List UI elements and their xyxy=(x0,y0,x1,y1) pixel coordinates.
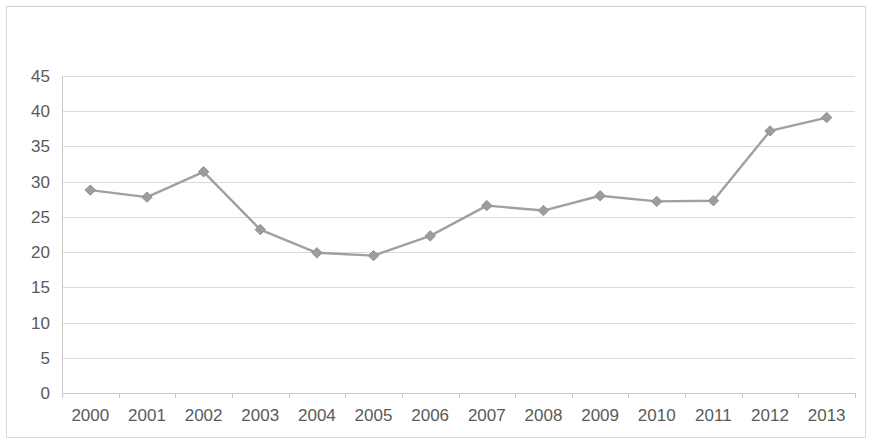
y-tick-label-45: 45 xyxy=(31,67,50,86)
y-tick-label-0: 0 xyxy=(41,384,50,403)
data-point-2010 xyxy=(652,196,662,206)
data-point-2009 xyxy=(595,191,605,201)
x-tick-label-2013: 2013 xyxy=(808,406,846,425)
y-tick-label-40: 40 xyxy=(31,102,50,121)
y-tick-label-35: 35 xyxy=(31,137,50,156)
x-tick-label-2000: 2000 xyxy=(71,406,109,425)
data-point-2006 xyxy=(425,231,435,241)
data-point-2000 xyxy=(85,185,95,195)
data-point-2001 xyxy=(142,192,152,202)
y-tick-label-20: 20 xyxy=(31,243,50,262)
plot-area: 051015202530354045 200020012002200320042… xyxy=(0,0,872,444)
x-tick-label-2012: 2012 xyxy=(751,406,789,425)
data-point-2004 xyxy=(312,248,322,258)
y-tick-label-10: 10 xyxy=(31,314,50,333)
y-axis-tick-labels: 051015202530354045 xyxy=(31,67,50,403)
gridlines xyxy=(62,77,855,394)
axis-lines xyxy=(62,76,856,398)
data-point-2007 xyxy=(482,200,492,210)
data-point-2013 xyxy=(821,112,831,122)
x-tick-label-2005: 2005 xyxy=(355,406,393,425)
y-tick-label-5: 5 xyxy=(41,349,50,368)
data-series xyxy=(90,118,826,256)
x-tick-label-2011: 2011 xyxy=(695,406,732,425)
x-tick-label-2007: 2007 xyxy=(468,406,506,425)
chart-figure: 051015202530354045 200020012002200320042… xyxy=(0,0,872,444)
data-point-2008 xyxy=(538,205,548,215)
x-tick-label-2006: 2006 xyxy=(411,406,449,425)
y-tick-label-15: 15 xyxy=(31,278,50,297)
x-tick-label-2002: 2002 xyxy=(185,406,223,425)
data-point-markers xyxy=(85,112,832,260)
x-tick-label-2009: 2009 xyxy=(581,406,619,425)
x-tick-label-2003: 2003 xyxy=(241,406,279,425)
x-tick-label-2010: 2010 xyxy=(638,406,676,425)
x-tick-label-2004: 2004 xyxy=(298,406,336,425)
x-axis-tick-labels: 2000200120022003200420052006200720082009… xyxy=(71,406,845,425)
x-tick-label-2008: 2008 xyxy=(525,406,563,425)
y-tick-label-30: 30 xyxy=(31,173,50,192)
x-tick-label-2001: 2001 xyxy=(128,406,166,425)
series-line-path xyxy=(90,118,826,256)
line-chart-svg: 051015202530354045 200020012002200320042… xyxy=(0,0,872,444)
y-tick-label-25: 25 xyxy=(31,208,50,227)
data-point-2005 xyxy=(368,250,378,260)
